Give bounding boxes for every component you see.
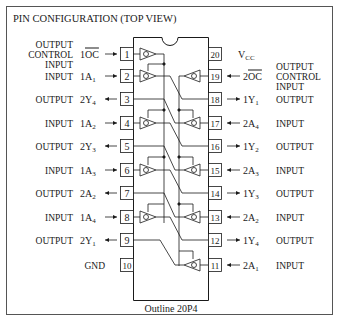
pin-signal-name: 1Y3 xyxy=(243,188,259,202)
pin-number: 15 xyxy=(211,166,221,176)
pin-number: 19 xyxy=(211,72,221,82)
pin-18: 181Y1OUTPUT xyxy=(209,93,314,108)
pin-number: 5 xyxy=(125,141,130,152)
pin-signal-name: 2A4 xyxy=(243,118,259,132)
pin-number: 18 xyxy=(211,95,221,105)
pin-role-label: OUTPUT xyxy=(36,95,74,105)
pin-number: 1 xyxy=(125,49,130,60)
arrow-head-icon xyxy=(236,238,240,242)
buffer-icon xyxy=(140,48,156,60)
pin-signal-name: 1Y2 xyxy=(243,141,259,155)
pin-11: 112A1INPUT xyxy=(209,259,305,274)
pin-number: 8 xyxy=(125,212,130,223)
pin-role-label: GND xyxy=(84,261,105,271)
pin-2: 21A1INPUT xyxy=(45,70,133,85)
arrow-head-icon xyxy=(113,215,117,219)
pin-19: 192OCOUTPUTCONTROLINPUT xyxy=(209,62,322,92)
pin-4: 41A2INPUT xyxy=(45,117,133,132)
arrow-head-icon xyxy=(227,168,231,172)
arrow-head-icon xyxy=(105,144,109,148)
pin-role-label: CONTROL xyxy=(276,72,321,82)
pin-13: 132A2INPUT xyxy=(209,211,305,226)
pin-9: 92Y1OUTPUT xyxy=(36,234,134,249)
pin-signal-name: 1A1 xyxy=(80,71,96,85)
pin-role-label: OUTPUT xyxy=(276,62,314,72)
pin-role-label: OUTPUT xyxy=(36,236,74,246)
pin-signal-name: 1Y1 xyxy=(243,94,259,108)
pin-number: 2 xyxy=(125,71,130,82)
arrow-head-icon xyxy=(236,144,240,148)
pin-1: 11OCOUTPUTCONTROLINPUT xyxy=(28,40,133,70)
arrow-head-icon xyxy=(113,121,117,125)
pin-configuration-diagram: PIN CONFIGURATION (TOP VIEW) 11OCOUTPUTC… xyxy=(0,0,339,321)
pin-signal-name: 2A1 xyxy=(243,260,259,274)
pin-number: 9 xyxy=(125,235,130,246)
outline-label: Outline 20P4 xyxy=(144,303,197,314)
internal-wiring xyxy=(133,54,208,266)
buffer-icon xyxy=(140,117,156,129)
pin-number: 13 xyxy=(211,213,221,223)
pin-role-label: OUTPUT xyxy=(276,142,314,152)
arrow-head-icon xyxy=(236,97,240,101)
pin-signal-name: 2OC xyxy=(243,71,262,82)
pin-signal-name: VCC xyxy=(238,49,255,63)
pin-number: 16 xyxy=(211,142,221,152)
arrow-head-icon xyxy=(227,74,231,78)
pin-number: 10 xyxy=(123,261,133,271)
pin-6: 61A3INPUT xyxy=(45,164,133,179)
pin-signal-name: 2Y1 xyxy=(80,235,96,249)
pin-role-label: INPUT xyxy=(45,72,73,82)
buffer-icon xyxy=(184,259,200,271)
buffer-icon xyxy=(184,117,200,129)
pin-role-label: INPUT xyxy=(276,119,304,129)
arrow-head-icon xyxy=(105,238,109,242)
pin-role-label: INPUT xyxy=(276,213,304,223)
pin-role-label: INPUT xyxy=(276,166,304,176)
pin-number: 4 xyxy=(125,118,130,129)
pin-signal-name: 2Y4 xyxy=(80,94,96,108)
pin-role-label: OUTPUT xyxy=(36,189,74,199)
pin-signal-name: 1OC xyxy=(80,49,99,60)
pin-number: 11 xyxy=(211,261,220,271)
arrow-head-icon xyxy=(113,74,117,78)
pin-signal-name: 2A2 xyxy=(80,188,96,202)
right-pins: 20VCC192OCOUTPUTCONTROLINPUT181Y1OUTPUT1… xyxy=(209,48,322,274)
pin-role-label: INPUT xyxy=(45,213,73,223)
pin-number: 7 xyxy=(125,188,130,199)
arrow-head-icon xyxy=(227,121,231,125)
pin-role-label: CONTROL xyxy=(28,50,73,60)
diagram-title: PIN CONFIGURATION (TOP VIEW) xyxy=(13,13,177,25)
pin-role-label: INPUT xyxy=(276,261,304,271)
arrow-head-icon xyxy=(105,191,109,195)
pin-3: 32Y4OUTPUT xyxy=(36,93,134,108)
pin-12: 121Y4OUTPUT xyxy=(209,234,314,249)
pin-number: 3 xyxy=(125,94,130,105)
pin-number: 20 xyxy=(211,50,221,60)
pin-signal-name: 2A3 xyxy=(243,165,259,179)
pin-8: 81A4INPUT xyxy=(45,211,133,226)
pin-role-label: OUTPUT xyxy=(36,40,74,50)
buffer-icon xyxy=(184,211,200,223)
pin-10: 10GND xyxy=(84,259,133,272)
pin-15: 152A3INPUT xyxy=(209,164,305,179)
pin-role-label: INPUT xyxy=(276,82,304,92)
pin-signal-name: 2A2 xyxy=(243,212,259,226)
pin-number: 17 xyxy=(211,119,221,129)
pin-number: 6 xyxy=(125,165,130,176)
pin-signal-name: 2Y3 xyxy=(80,141,96,155)
pin-role-label: OUTPUT xyxy=(36,142,74,152)
buffer-icon xyxy=(140,70,156,82)
pin-16: 161Y2OUTPUT xyxy=(209,140,314,155)
arrow-head-icon xyxy=(105,97,109,101)
arrow-head-icon xyxy=(236,191,240,195)
buffer-icon xyxy=(140,164,156,176)
pin-number: 12 xyxy=(211,236,220,246)
pin-signal-name: 1Y4 xyxy=(243,235,259,249)
pin-signal-name: 1A2 xyxy=(80,118,96,132)
left-pins: 11OCOUTPUTCONTROLINPUT21A1INPUT32Y4OUTPU… xyxy=(28,40,133,272)
buffer-icon xyxy=(184,164,200,176)
pin-number: 14 xyxy=(211,189,221,199)
pin-20: 20VCC xyxy=(209,48,255,63)
pin-signal-name: 1A3 xyxy=(80,165,96,179)
pin-17: 172A4INPUT xyxy=(209,117,305,132)
